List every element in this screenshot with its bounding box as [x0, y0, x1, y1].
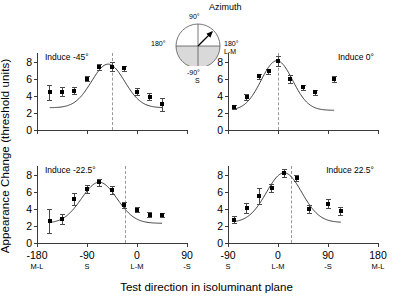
- panel-induce-minus-22-5: 02468-180M-L-90S0L-M90-SInduce -22.5°: [37, 166, 187, 243]
- data-point: [110, 188, 114, 192]
- error-bar-cap: [97, 186, 102, 187]
- panel-induce-22-5: 02468-90S0L-M90-S180M-LInduce 22.5°: [228, 166, 378, 243]
- x-tick-label: -90: [67, 250, 107, 261]
- error-bar-cap: [72, 193, 77, 194]
- x-tick-label: 90: [167, 250, 207, 261]
- data-point: [288, 77, 292, 81]
- y-tick-label: 2: [207, 221, 223, 232]
- error-bar-cap: [307, 213, 312, 214]
- data-point: [257, 194, 261, 198]
- data-point: [160, 102, 164, 106]
- error-bar-cap: [244, 213, 249, 214]
- data-point: [72, 89, 76, 93]
- data-point: [85, 187, 89, 191]
- y-tick-label: 6: [207, 187, 223, 198]
- y-tick-label: 6: [16, 187, 32, 198]
- x-tick-sublabel: L-M: [258, 263, 298, 271]
- y-tick-label: 8: [16, 57, 32, 68]
- error-bar-cap: [85, 193, 90, 194]
- figure-root: Appearance Change (threshold units) Test…: [0, 0, 413, 300]
- data-point: [307, 207, 311, 211]
- error-bar-cap: [60, 96, 65, 97]
- data-point: [282, 171, 286, 175]
- error-bar-cap: [313, 95, 318, 96]
- y-tick-label: 0: [207, 125, 223, 136]
- data-point: [85, 77, 89, 81]
- error-bar-cap: [266, 74, 271, 75]
- fitted-curve: [37, 166, 189, 245]
- x-tick-label: -90: [208, 250, 248, 261]
- data-point: [245, 95, 249, 99]
- error-bar-cap: [47, 100, 52, 101]
- error-bar-cap: [72, 87, 77, 88]
- y-tick-label: 4: [16, 204, 32, 215]
- data-point: [110, 65, 114, 69]
- error-bar-cap: [147, 217, 152, 218]
- data-point: [276, 59, 280, 63]
- error-bar-cap: [269, 192, 274, 193]
- error-bar-cap: [85, 81, 90, 82]
- error-bar-cap: [244, 100, 249, 101]
- x-tick-sublabel: S: [208, 263, 248, 271]
- data-point: [122, 203, 126, 207]
- fitted-curve: [228, 53, 380, 132]
- error-bar-cap: [269, 184, 274, 185]
- error-bar-cap: [47, 85, 52, 86]
- error-bar-cap: [244, 203, 249, 204]
- error-bar-cap: [338, 207, 343, 208]
- error-bar-cap: [60, 87, 65, 88]
- y-tick-label: 2: [207, 108, 223, 119]
- azimuth-top-label: 90°: [189, 13, 200, 20]
- y-tick-label: 0: [16, 238, 32, 249]
- x-tick-sublabel: M-L: [17, 263, 57, 271]
- azimuth-right-label: 180°: [224, 40, 238, 47]
- data-point: [295, 176, 299, 180]
- error-bar-cap: [282, 177, 287, 178]
- error-bar-cap: [97, 70, 102, 71]
- error-bar-cap: [257, 204, 262, 205]
- error-bar-cap: [110, 186, 115, 187]
- x-tick-label: 0: [258, 250, 298, 261]
- error-bar-cap: [232, 109, 237, 110]
- data-point: [267, 69, 271, 73]
- x-tick-label: -180: [17, 250, 57, 261]
- y-tick-label: 2: [16, 221, 32, 232]
- error-bar-cap: [326, 199, 331, 200]
- fitted-curve: [228, 166, 380, 245]
- error-bar-cap: [60, 214, 65, 215]
- data-point: [135, 208, 139, 212]
- error-bar-cap: [110, 194, 115, 195]
- y-tick-label: 4: [16, 91, 32, 102]
- data-point: [60, 217, 64, 221]
- error-bar-cap: [72, 94, 77, 95]
- y-tick-label: 2: [16, 108, 32, 119]
- data-point: [148, 213, 152, 217]
- error-bar-cap: [47, 233, 52, 234]
- x-axis-label: Test direction in isoluminant plane: [0, 281, 413, 293]
- y-tick-label: 6: [16, 74, 32, 85]
- data-point: [135, 90, 139, 94]
- error-bar-cap: [257, 79, 262, 80]
- error-bar-cap: [307, 205, 312, 206]
- error-bar-cap: [72, 205, 77, 206]
- data-point: [60, 90, 64, 94]
- x-tick-label: 180: [358, 250, 398, 261]
- error-bar-cap: [301, 90, 306, 91]
- data-point: [232, 105, 236, 109]
- data-point: [148, 95, 152, 99]
- y-tick-label: 4: [207, 204, 223, 215]
- error-bar-cap: [282, 169, 287, 170]
- error-bar-cap: [326, 208, 331, 209]
- error-bar-cap: [288, 83, 293, 84]
- azimuth-title: Azimuth: [209, 2, 242, 12]
- error-bar-cap: [60, 224, 65, 225]
- error-bar-cap: [110, 71, 115, 72]
- y-tick-label: 4: [207, 91, 223, 102]
- y-tick-label: 8: [207, 170, 223, 181]
- data-point: [301, 85, 305, 89]
- data-point: [332, 77, 336, 81]
- error-bar-cap: [122, 208, 127, 209]
- x-tick-label: 90: [308, 250, 348, 261]
- data-point: [232, 218, 236, 222]
- data-point: [160, 213, 164, 217]
